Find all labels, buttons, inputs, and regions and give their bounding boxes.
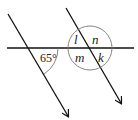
angle-label-l: l	[74, 32, 78, 47]
angle-label-k: k	[98, 50, 104, 65]
left-parallel-line	[8, 14, 68, 116]
given-angle-label: 65°	[40, 51, 57, 65]
angle-label-n: n	[92, 32, 99, 47]
angle-label-m: m	[75, 50, 84, 65]
geometry-diagram: 65° l n m k	[0, 0, 138, 120]
